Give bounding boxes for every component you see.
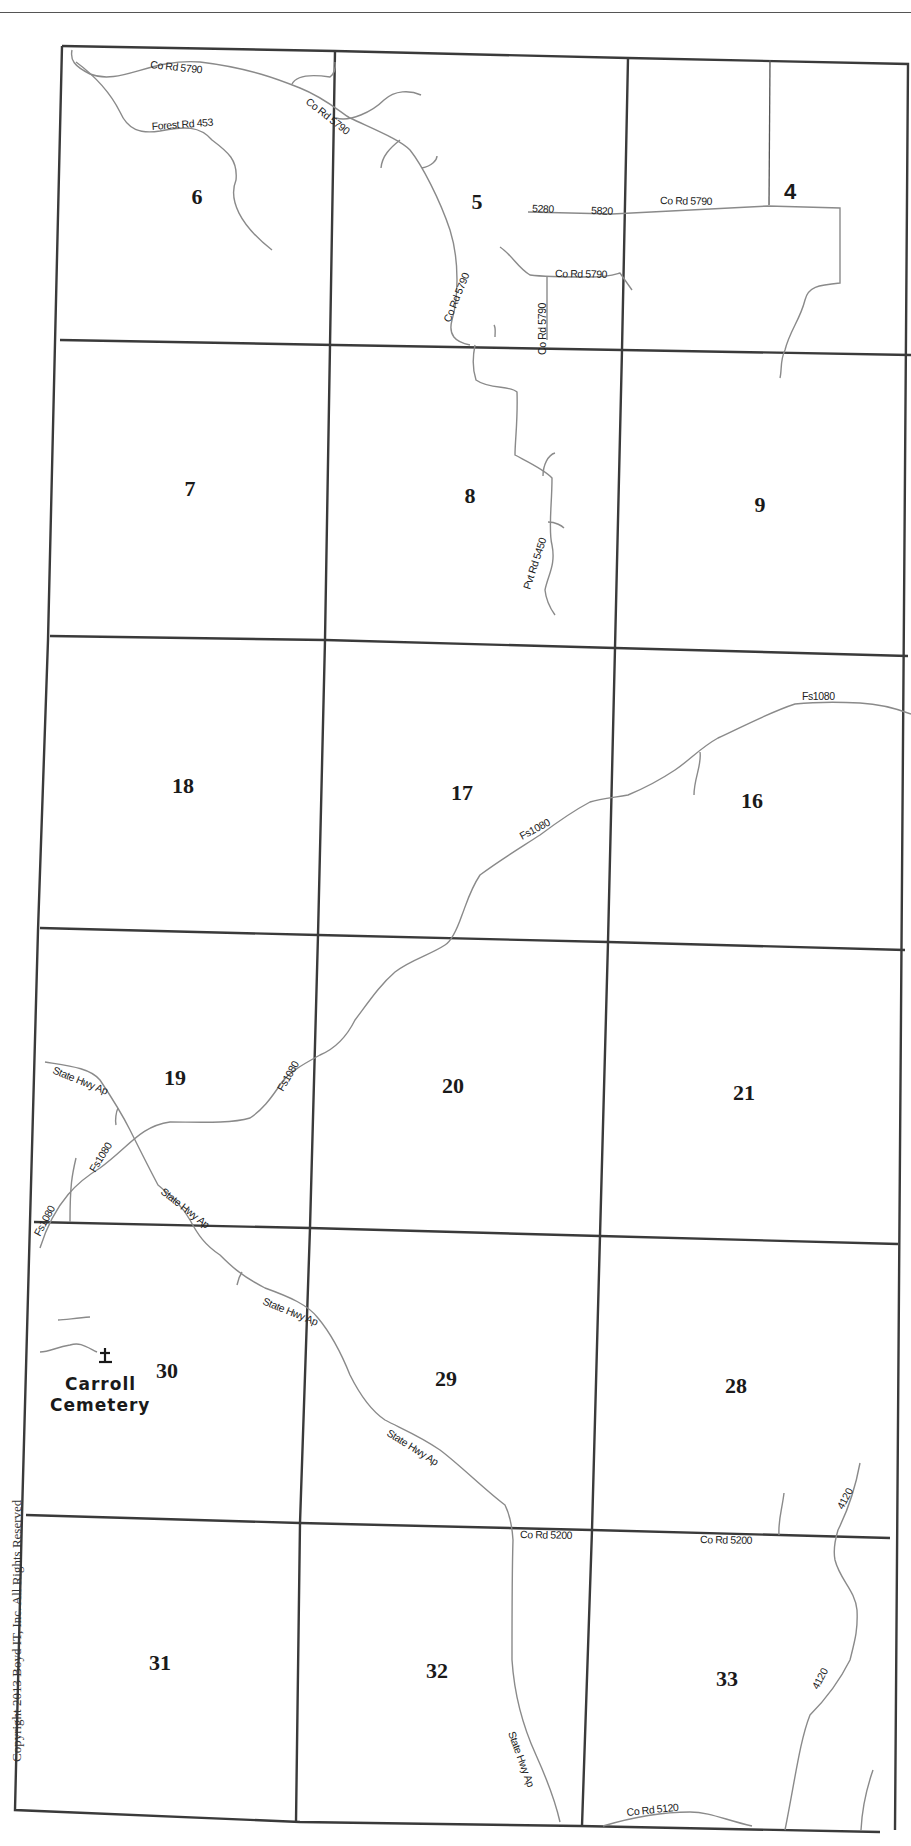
- section-grid: [15, 46, 911, 1832]
- cemetery-cross-icon: [99, 1348, 112, 1362]
- road-label: 4120: [809, 1666, 830, 1691]
- road-label: Pvt Rd 5450: [520, 536, 548, 591]
- road-label: Co Rd 5790: [441, 270, 472, 323]
- road-label: Forest Rd 453: [151, 116, 214, 132]
- road-label: Fs1080: [87, 1140, 115, 1174]
- section-29: 29: [435, 1366, 457, 1391]
- section-21: 21: [733, 1080, 755, 1105]
- road-label: Co Rd 5790: [536, 302, 548, 355]
- section-8: 8: [465, 483, 476, 508]
- road-label: State Hwy Ap: [385, 1427, 441, 1468]
- section-5: 5: [472, 189, 483, 214]
- road-label: Co Rd 5790: [660, 194, 713, 207]
- section-33: 33: [716, 1666, 738, 1691]
- cemetery-name-line1: Carroll: [65, 1374, 136, 1394]
- road-label: Co Rd 5790: [150, 58, 204, 75]
- road-label: Co Rd 5790: [304, 95, 353, 137]
- road-label: Fs1080: [274, 1058, 301, 1093]
- section-numbers: 6 5 4 7 8 9 18 17 16 19 20 21 30 29 28 3…: [149, 179, 797, 1691]
- road-label: Fs1080: [802, 690, 835, 702]
- road-label: Co Rd 5200: [700, 1533, 753, 1546]
- section-18: 18: [172, 773, 194, 798]
- township-map: 6 5 4 7 8 9 18 17 16 19 20 21 30 29 28 3…: [0, 0, 911, 1846]
- section-9: 9: [755, 492, 766, 517]
- section-4: 4: [784, 179, 797, 204]
- road-label: State Hwy Ap: [506, 1730, 537, 1789]
- road-label: 5280: [532, 202, 555, 215]
- section-31: 31: [149, 1650, 171, 1675]
- section-6: 6: [192, 184, 203, 209]
- section-32: 32: [426, 1658, 448, 1683]
- cemetery-name-line2: Cemetery: [50, 1395, 150, 1415]
- road-label: 5820: [591, 204, 614, 217]
- carroll-cemetery: Carroll Cemetery: [50, 1348, 150, 1415]
- section-7: 7: [185, 476, 196, 501]
- copyright-notice: Copyright 2013 Boyd IT, Inc. All Rights …: [9, 1499, 24, 1762]
- section-16: 16: [741, 788, 763, 813]
- road-label: 4120: [834, 1486, 855, 1511]
- road-label: Co Rd 5790: [555, 267, 608, 280]
- road-label: Co Rd 5200: [520, 1528, 573, 1541]
- section-17: 17: [451, 780, 473, 805]
- section-30: 30: [156, 1358, 178, 1383]
- section-19: 19: [164, 1065, 186, 1090]
- road-label: Fs1080: [31, 1203, 57, 1238]
- section-20: 20: [442, 1073, 464, 1098]
- section-28: 28: [725, 1373, 747, 1398]
